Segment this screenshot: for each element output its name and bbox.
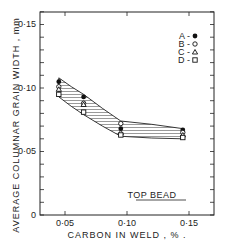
open-triangle-icon bbox=[192, 50, 197, 55]
legend: A - B - C - D - bbox=[178, 31, 198, 65]
data-point-a bbox=[56, 79, 61, 84]
y-tick-label: 0 bbox=[31, 210, 36, 220]
annotation-top-bead: TOP BEAD bbox=[127, 190, 176, 200]
x-tick-label: 0·10 bbox=[118, 218, 136, 228]
legend-label-d: D - bbox=[178, 55, 190, 65]
data-point-d bbox=[81, 110, 85, 114]
open-square-icon bbox=[193, 58, 197, 62]
data-point-d bbox=[181, 135, 185, 139]
data-point-b bbox=[119, 121, 123, 125]
filled-circle-icon bbox=[193, 34, 198, 39]
y-axis-title: AVERAGE COLUMNAR GRAIN WIDTH , mm bbox=[11, 17, 21, 232]
data-point-d bbox=[119, 133, 123, 137]
open-circle-icon bbox=[193, 42, 197, 46]
x-axis-title: CARBON IN WELD , % . bbox=[67, 230, 186, 240]
data-point-d bbox=[57, 92, 61, 96]
data-point-a bbox=[81, 94, 86, 99]
chart: 0 0·05 0·10 0·15 0·05 0·10 0·15 CARBON I… bbox=[0, 0, 226, 247]
x-tick-label: 0·15 bbox=[180, 218, 198, 228]
x-tick-label: 0·05 bbox=[56, 218, 74, 228]
